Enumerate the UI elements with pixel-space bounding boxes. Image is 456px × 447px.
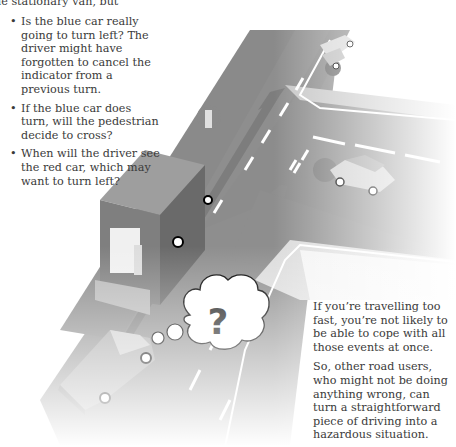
- conclusion-text: If you’re travelling too fast, you’re no…: [313, 300, 453, 447]
- question-item: When will the driver see the red car, wh…: [10, 147, 160, 188]
- question-item: Is the blue car really going to turn lef…: [10, 15, 160, 97]
- conclusion-paragraph: So, other road users, who might not be d…: [313, 360, 453, 442]
- conclusion-paragraph: If you’re travelling too fast, you’re no…: [313, 300, 453, 354]
- question-item: If the blue car does turn, will the pede…: [10, 102, 160, 143]
- intro-fragment: he stationary van, but: [0, 0, 118, 9]
- hazard-questions-list: Is the blue car really going to turn lef…: [10, 15, 160, 193]
